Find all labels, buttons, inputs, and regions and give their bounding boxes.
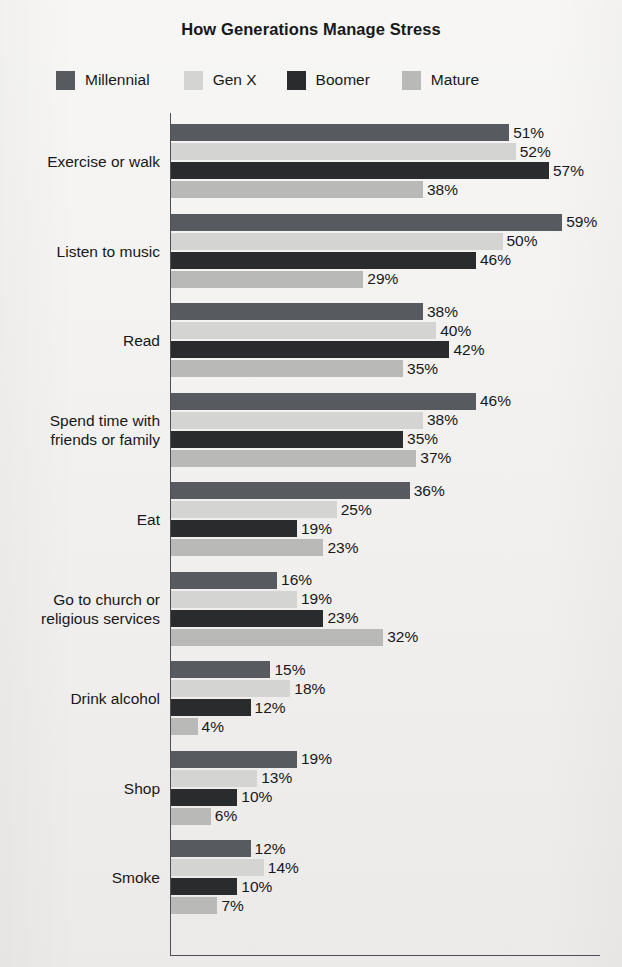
bar-row: 46% [171,393,600,410]
bar-boomer [171,878,237,895]
bar-value-label: 23% [323,539,358,557]
bar-millennial [171,124,509,141]
bar-row: 6% [171,808,600,825]
bar-row: 36% [171,482,600,499]
bar-mature [171,271,363,288]
bar-boomer [171,162,549,179]
bar-gen-x [171,412,423,429]
bar-row: 13% [171,770,600,787]
bar-group: 36%25%19%23% [171,482,600,558]
legend-item-mature[interactable]: Mature [402,68,479,92]
legend-item-boomer[interactable]: Boomer [287,68,370,92]
bar-row: 38% [171,303,600,320]
chart-legend: Millennial Gen X Boomer Mature [56,68,596,92]
bar-boomer [171,789,237,806]
bar-row: 51% [171,124,600,141]
bar-value-label: 15% [270,661,305,679]
bar-row: 12% [171,840,600,857]
bar-value-label: 59% [562,213,597,231]
plot-area: 51%52%57%38%59%50%46%29%38%40%42%35%46%3… [170,113,600,956]
bar-value-label: 12% [251,699,286,717]
bar-value-label: 7% [217,897,243,915]
legend-label-mature: Mature [431,71,479,89]
category-label: Listen to music [57,241,160,260]
bar-value-label: 46% [476,251,511,269]
bar-value-label: 35% [403,360,438,378]
chart-page: How Generations Manage Stress Millennial… [0,0,622,967]
bar-row: 14% [171,859,600,876]
bar-value-label: 35% [403,430,438,448]
category-axis: Exercise or walkListen to musicReadSpend… [0,113,170,956]
bar-boomer [171,431,403,448]
legend-item-millennial[interactable]: Millennial [56,68,150,92]
category-label: Drink alcohol [70,689,160,708]
bar-value-label: 50% [503,232,538,250]
category-label: Shop [124,778,160,797]
bar-row: 23% [171,539,600,556]
bar-gen-x [171,322,436,339]
bar-value-label: 18% [290,680,325,698]
bar-row: 19% [171,520,600,537]
bar-row: 40% [171,322,600,339]
bar-mature [171,897,217,914]
bar-value-label: 52% [516,143,551,161]
bar-row: 16% [171,572,600,589]
bar-mature [171,718,198,735]
bar-gen-x [171,680,290,697]
legend-item-gen-x[interactable]: Gen X [184,68,257,92]
bar-row: 19% [171,591,600,608]
bar-mature [171,808,211,825]
bar-group: 46%38%35%37% [171,393,600,469]
bar-millennial [171,214,562,231]
bar-value-label: 38% [423,303,458,321]
category-label: Go to church or religious services [41,590,160,628]
bar-row: 37% [171,450,600,467]
chart-title: How Generations Manage Stress [0,20,622,39]
bar-value-label: 38% [423,181,458,199]
category-label: Eat [137,510,160,529]
bar-value-label: 37% [416,449,451,467]
bar-value-label: 23% [323,609,358,627]
bar-group: 59%50%46%29% [171,214,600,290]
bar-row: 23% [171,610,600,627]
bar-gen-x [171,143,516,160]
bar-value-label: 10% [237,878,272,896]
bar-row: 35% [171,360,600,377]
bar-group: 15%18%12%4% [171,661,600,737]
bar-row: 12% [171,699,600,716]
bar-gen-x [171,501,337,518]
bar-mature [171,539,323,556]
bar-value-label: 46% [476,392,511,410]
bar-group: 38%40%42%35% [171,303,600,379]
bar-row: 7% [171,897,600,914]
bar-millennial [171,840,251,857]
category-label: Read [123,331,160,350]
legend-label-boomer: Boomer [316,71,370,89]
legend-swatch-gen-x [184,71,203,90]
bar-mature [171,629,383,646]
bar-row: 38% [171,412,600,429]
bar-millennial [171,751,297,768]
bar-value-label: 57% [549,162,584,180]
bar-gen-x [171,859,264,876]
bar-group: 19%13%10%6% [171,751,600,827]
bar-row: 50% [171,233,600,250]
bar-value-label: 14% [264,859,299,877]
bar-value-label: 4% [198,718,224,736]
bar-value-label: 19% [297,590,332,608]
bar-gen-x [171,770,257,787]
bar-row: 15% [171,661,600,678]
bar-row: 57% [171,162,600,179]
bar-millennial [171,572,277,589]
bar-value-label: 42% [449,341,484,359]
bar-mature [171,360,403,377]
bar-millennial [171,482,410,499]
bar-value-label: 10% [237,788,272,806]
bar-row: 52% [171,143,600,160]
bar-gen-x [171,233,503,250]
bar-row: 10% [171,789,600,806]
bar-row: 4% [171,718,600,735]
bar-mature [171,450,416,467]
bar-millennial [171,393,476,410]
bar-value-label: 40% [436,322,471,340]
